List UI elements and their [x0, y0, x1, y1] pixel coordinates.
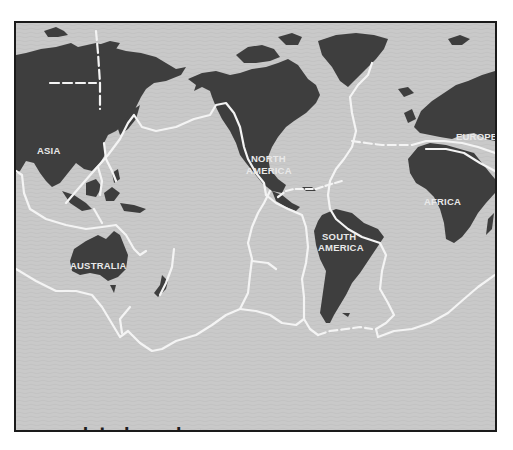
label-australia: AUSTRALIA — [70, 260, 127, 272]
label-asia: ASIA — [37, 145, 61, 157]
world-map — [16, 23, 495, 430]
label-south-america-2: AMERICA — [318, 242, 364, 254]
label-north-america-1: NORTH — [251, 153, 286, 165]
legend-label-plate-boundary: plate boundary — [71, 424, 211, 433]
legend: plate boundary — [34, 423, 211, 432]
map-frame: ASIA NORTH AMERICA EUROPE AFRICA SOUTH A… — [14, 21, 497, 432]
label-europe: EUROPE — [456, 131, 497, 143]
label-africa: AFRICA — [424, 196, 461, 208]
label-north-america-2: AMERICA — [246, 165, 292, 177]
